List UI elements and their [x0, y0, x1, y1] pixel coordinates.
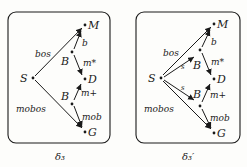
- edge-label-s-upper: s: [181, 63, 185, 71]
- edge-label-bos: bos: [163, 48, 179, 58]
- node-d-dot: [84, 78, 87, 81]
- edge-label-m-star: m*: [83, 58, 97, 68]
- diagram-delta3-prime: M B S D B G bos b m* s s mobos m+ mob δ₃…: [136, 12, 240, 162]
- node-d-label: D: [216, 73, 226, 86]
- node-b-upper-dot: [71, 51, 74, 54]
- edge-b-d2: [202, 84, 210, 102]
- edge-label-m-star: m*: [211, 57, 225, 67]
- caption-delta3-prime: δ₃′: [182, 151, 195, 162]
- node-m-dot: [84, 24, 87, 27]
- edge-b-m: [74, 31, 81, 49]
- node-g-dot: [84, 131, 87, 134]
- node-b-upper-dot: [199, 49, 202, 52]
- edge-label-mob: mob: [82, 112, 102, 122]
- edge-label-b: b: [211, 37, 217, 47]
- node-m-dot: [213, 23, 216, 26]
- node-b-lower-label: B: [60, 90, 69, 103]
- node-b-lower-label: B: [192, 88, 201, 101]
- edge-label-s-lower: s: [181, 84, 185, 92]
- edge-b-d: [202, 53, 211, 75]
- node-s-dot: [32, 77, 35, 80]
- edge-label-m-plus: m+: [81, 88, 97, 98]
- edge-label-bos: bos: [35, 49, 51, 59]
- edge-b-d: [74, 55, 82, 75]
- diagram-delta3: M B S D B G bos b m* mobos m+ mob δ₃: [8, 12, 110, 162]
- caption-delta3: δ₃: [55, 151, 65, 162]
- edge-label-mob: mob: [210, 113, 230, 123]
- node-b-lower-dot: [71, 103, 74, 106]
- node-s-label: S: [20, 72, 28, 85]
- node-d-label: D: [87, 73, 97, 86]
- edge-label-mobos: mobos: [16, 104, 46, 114]
- node-m-label: M: [216, 18, 229, 31]
- node-b-upper-label: B: [60, 55, 69, 68]
- node-g-label: G: [88, 126, 97, 139]
- node-g-dot: [213, 132, 216, 135]
- node-m-label: M: [87, 19, 100, 32]
- node-s-label: S: [148, 72, 156, 85]
- node-d-dot: [213, 78, 216, 81]
- edge-label-b: b: [82, 38, 88, 48]
- edge-label-m-plus: m+: [210, 90, 226, 100]
- node-g-label: G: [217, 127, 226, 140]
- edge-label-mobos: mobos: [144, 104, 174, 114]
- edge-b-d2: [74, 84, 81, 100]
- node-b-upper-label: B: [192, 59, 201, 72]
- node-s-dot: [160, 77, 163, 80]
- node-b-lower-dot: [199, 105, 202, 108]
- edge-s-b-upper: [164, 57, 194, 77]
- diagram-canvas: M B S D B G bos b m* mobos m+ mob δ₃ M: [0, 0, 247, 167]
